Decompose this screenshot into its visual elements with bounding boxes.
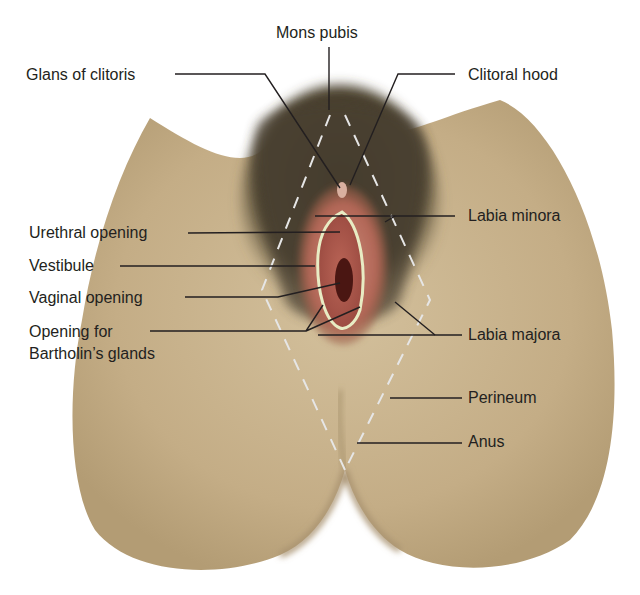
label-urethral-opening: Urethral opening	[29, 223, 147, 242]
label-opening-for-bartholins-line2: Bartholin’s glands	[29, 344, 155, 363]
label-mons-pubis: Mons pubis	[276, 23, 358, 42]
vulva-anatomy-diagram: Mons pubis Glans of clitoris Clitoral ho…	[0, 0, 640, 595]
label-clitoral-hood: Clitoral hood	[468, 65, 558, 84]
label-anus: Anus	[468, 432, 504, 451]
label-labia-majora: Labia majora	[468, 325, 561, 344]
label-perineum: Perineum	[468, 388, 536, 407]
label-vaginal-opening: Vaginal opening	[29, 288, 143, 307]
label-glans-of-clitoris: Glans of clitoris	[26, 65, 135, 84]
label-opening-for-bartholins-line1: Opening for	[29, 322, 113, 341]
label-labia-minora: Labia minora	[468, 206, 561, 225]
label-vestibule: Vestibule	[29, 256, 94, 275]
